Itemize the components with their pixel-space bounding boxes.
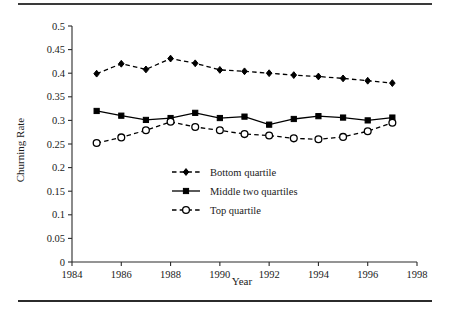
series-marker (192, 124, 199, 131)
legend-label: Bottom quartile (210, 167, 277, 178)
legend-marker (183, 207, 190, 214)
series-marker (291, 116, 296, 121)
legend-item: Top quartile (172, 205, 261, 216)
series-marker (93, 140, 100, 147)
series-marker (340, 75, 346, 82)
data-series (93, 118, 396, 146)
y-tick-label: 0.15 (47, 186, 65, 197)
x-tick-label: 1998 (407, 269, 428, 280)
series-marker (216, 127, 223, 134)
series-marker (340, 134, 347, 141)
x-tick-label: 1992 (259, 269, 280, 280)
x-tick-label: 1984 (62, 269, 84, 280)
x-tick-label: 1986 (111, 269, 132, 280)
x-tick-label: 1990 (209, 269, 230, 280)
series-marker (365, 118, 370, 123)
series-marker (315, 136, 322, 143)
series-marker (94, 108, 99, 113)
x-axis-ticks (72, 262, 417, 266)
line-chart-plot: 00.050.10.150.20.250.30.350.40.450.5 198… (0, 0, 450, 311)
y-tick-label: 0.25 (47, 139, 65, 150)
y-tick-label: 0.2 (52, 162, 65, 173)
series-marker (267, 122, 272, 127)
series-marker (118, 134, 125, 141)
series-marker (241, 131, 248, 138)
series-marker (365, 77, 371, 84)
series-marker (143, 127, 150, 134)
legend-item: Bottom quartile (172, 167, 277, 178)
series-marker (390, 80, 396, 87)
x-tick-label: 1996 (357, 269, 378, 280)
series-marker (143, 117, 148, 122)
chart-figure: 00.050.10.150.20.250.30.350.40.450.5 198… (0, 0, 450, 311)
y-tick-label: 0.45 (47, 44, 65, 55)
series-marker (217, 66, 223, 73)
series-marker (167, 118, 174, 125)
x-tick-label: 1988 (160, 269, 181, 280)
y-tick-label: 0.35 (47, 91, 65, 102)
series-marker (340, 115, 345, 120)
series-marker (291, 72, 297, 79)
y-tick-label: 0.05 (47, 233, 65, 244)
legend-label: Middle two quartiles (210, 186, 298, 197)
series-marker (316, 73, 322, 80)
x-axis-title: Year (232, 275, 253, 287)
data-series (94, 108, 395, 127)
x-tick-label: 1994 (308, 269, 330, 280)
series-marker (266, 132, 273, 139)
series-marker (217, 115, 222, 120)
series-marker (242, 114, 247, 119)
series-marker (168, 55, 174, 62)
series-marker (94, 70, 100, 77)
series-marker (290, 135, 297, 142)
series-marker (192, 60, 198, 67)
data-series-layer (93, 55, 396, 146)
chart-legend: Bottom quartileMiddle two quartilesTop q… (172, 167, 298, 216)
series-marker (364, 128, 371, 135)
series-marker (389, 119, 396, 126)
legend-item: Middle two quartiles (172, 186, 298, 197)
series-marker (118, 60, 124, 67)
y-axis-ticks (68, 26, 72, 262)
series-marker (316, 114, 321, 119)
series-marker (119, 113, 124, 118)
data-series (94, 55, 395, 86)
y-tick-label: 0.1 (52, 209, 65, 220)
y-tick-label: 0.4 (52, 68, 66, 79)
series-marker (193, 110, 198, 115)
series-marker (242, 68, 248, 75)
y-axis-title: Churning Rate (14, 118, 26, 183)
series-marker (266, 70, 272, 77)
legend-marker (183, 169, 189, 176)
y-axis: 00.050.10.150.20.250.30.350.40.450.5 (47, 21, 72, 268)
legend-marker (183, 188, 188, 193)
y-tick-label: 0 (60, 257, 65, 268)
series-marker (143, 66, 149, 73)
y-axis-tick-labels: 00.050.10.150.20.250.30.350.40.450.5 (47, 21, 66, 268)
legend-label: Top quartile (210, 205, 261, 216)
y-tick-label: 0.5 (52, 21, 65, 32)
y-tick-label: 0.3 (52, 115, 65, 126)
